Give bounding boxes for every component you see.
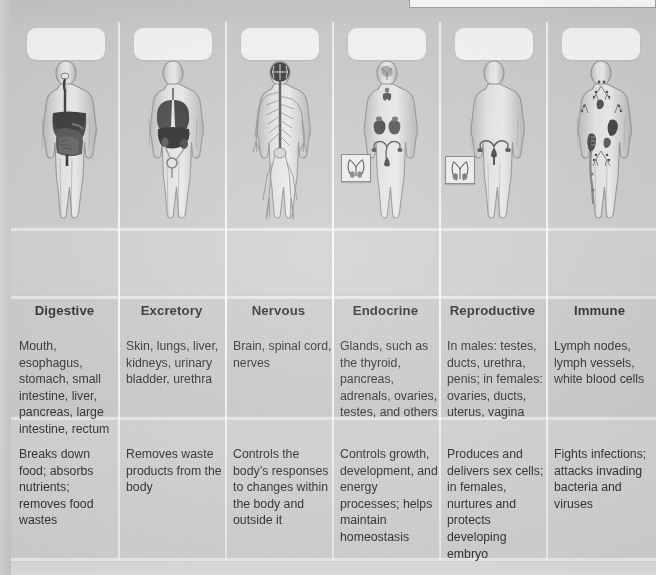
system-column-digestive[interactable]: Digestive Mouth, esophagus, stomach, sma…	[11, 0, 118, 575]
system-functions-text: Controls growth, development, and energy…	[340, 446, 439, 546]
system-title: Reproductive	[439, 303, 546, 318]
excretory-system-body-diagram	[127, 58, 219, 230]
system-column-excretory[interactable]: Excretory Skin, lungs, liver, kidneys, u…	[118, 0, 225, 575]
system-title: Excretory	[118, 303, 225, 318]
immune-system-body-diagram	[555, 58, 647, 230]
digestive-system-body-diagram	[20, 58, 112, 230]
system-organs-text: In males: testes, ducts, urethra, penis;…	[447, 338, 546, 421]
system-organs-text: Glands, such as the thyroid, pancreas, a…	[340, 338, 439, 421]
system-functions-text: Removes waste products from the body	[126, 446, 225, 496]
reproductive-inset-callout	[445, 156, 475, 184]
name-plate	[455, 28, 533, 60]
reproductive-system-body-diagram	[448, 58, 540, 230]
system-functions-text: Controls the body’s responses to changes…	[233, 446, 332, 529]
system-functions-text: Produces and delivers sex cells; in fema…	[447, 446, 546, 562]
system-title: Endocrine	[332, 303, 439, 318]
endocrine-inset-callout	[341, 154, 371, 182]
body-systems-comparison-table: Digestive Mouth, esophagus, stomach, sma…	[0, 0, 656, 575]
system-organs-text: Brain, spinal cord, nerves	[233, 338, 332, 371]
system-title: Nervous	[225, 303, 332, 318]
name-plate	[27, 28, 105, 60]
system-title: Digestive	[11, 303, 118, 318]
system-organs-text: Skin, lungs, liver, kidneys, urinary bla…	[126, 338, 225, 388]
system-column-immune[interactable]: Immune Lymph nodes, lymph vessels, white…	[546, 0, 653, 575]
name-plate	[348, 28, 426, 60]
system-title: Immune	[546, 303, 653, 318]
paper-left-margin	[0, 0, 11, 575]
endocrine-system-body-diagram	[341, 58, 433, 230]
name-plate	[134, 28, 212, 60]
system-column-nervous[interactable]: Nervous Brain, spinal cord, nerves Contr…	[225, 0, 332, 575]
name-plate	[241, 28, 319, 60]
system-functions-text: Breaks down food; absorbs nutrients; rem…	[19, 446, 118, 529]
system-column-endocrine[interactable]: Endocrine Glands, such as the thyroid, p…	[332, 0, 439, 575]
nervous-system-body-diagram	[234, 58, 326, 230]
system-organs-text: Lymph nodes, lymph vessels, white blood …	[554, 338, 653, 388]
system-column-reproductive[interactable]: Reproductive In males: testes, ducts, ur…	[439, 0, 546, 575]
system-organs-text: Mouth, esophagus, stomach, small intesti…	[19, 338, 118, 438]
name-plate	[562, 28, 640, 60]
system-functions-text: Fights infections; attacks invading bact…	[554, 446, 653, 512]
